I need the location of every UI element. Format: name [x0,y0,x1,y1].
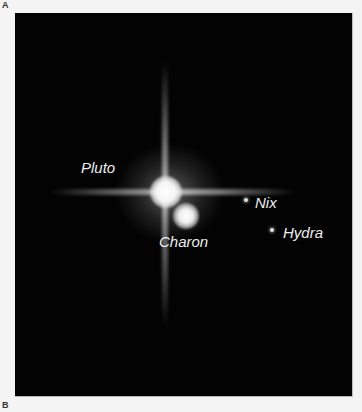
hydra-dot [270,228,274,232]
panel-label-a: A [2,0,9,10]
nix-dot [244,198,248,202]
charon-label: Charon [159,233,208,250]
pluto-label: Pluto [81,159,115,176]
panel-label-b: B [2,400,9,410]
pluto-disc [150,176,182,208]
pluto-system-image: Pluto Charon Nix Hydra [15,13,353,397]
hydra-label: Hydra [283,224,323,241]
nix-label: Nix [255,194,277,211]
charon-disc [173,203,199,229]
